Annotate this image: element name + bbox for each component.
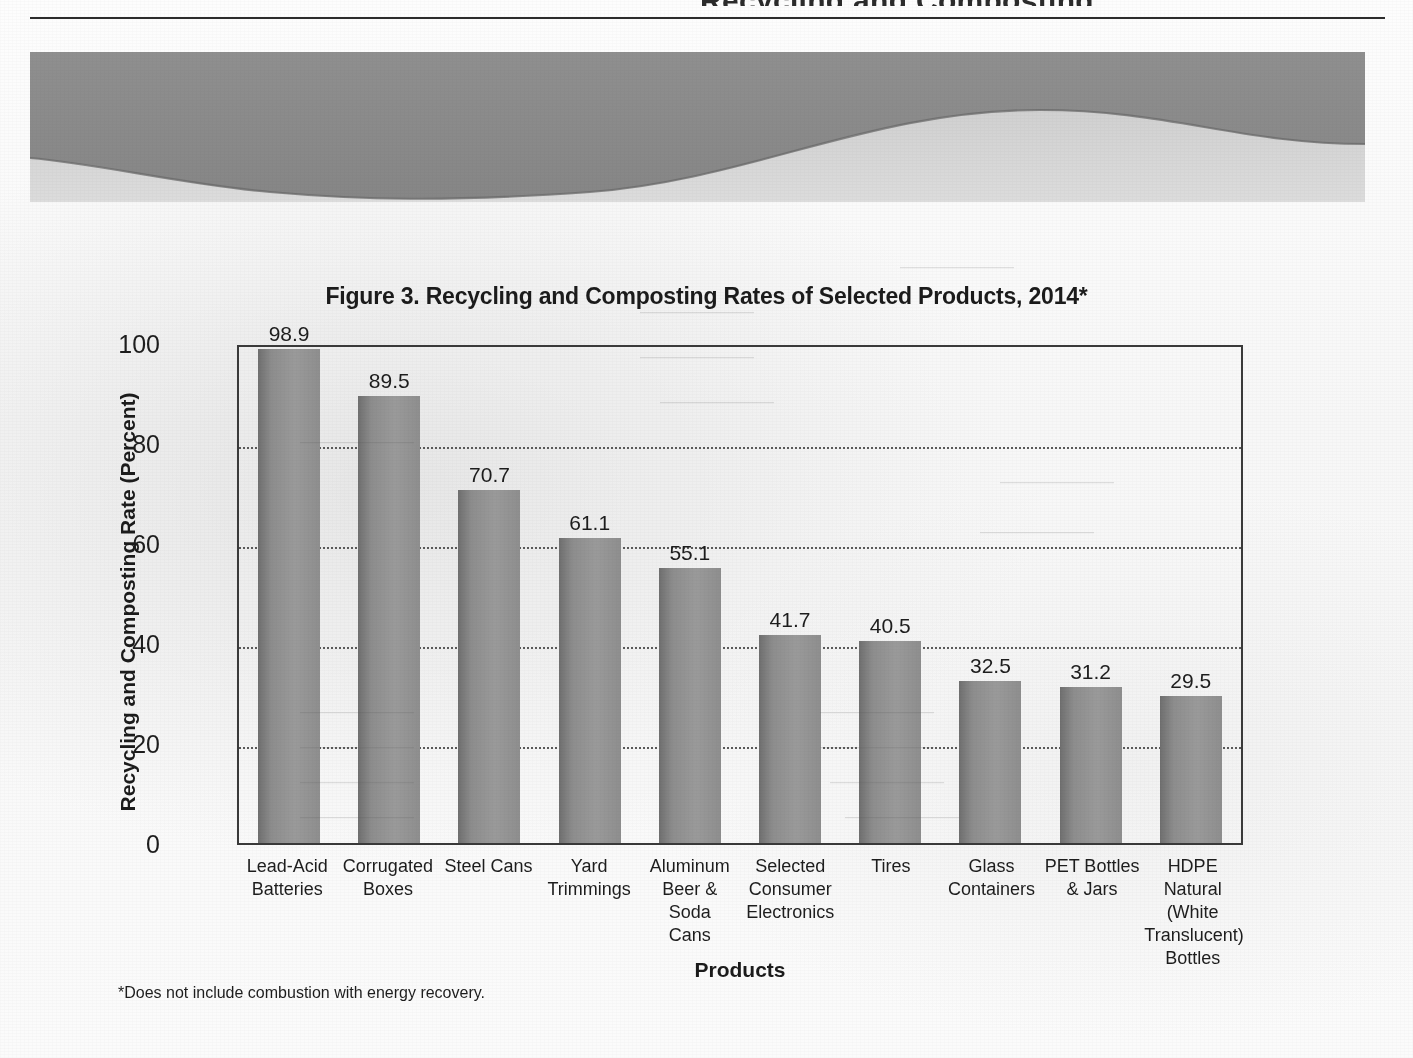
bar-slot: 41.7 (740, 347, 840, 843)
bar-value-label: 55.1 (669, 541, 710, 565)
bar-value-label: 40.5 (870, 614, 911, 638)
plot-area: 98.989.570.761.155.141.740.532.531.229.5 (237, 345, 1243, 845)
x-axis-category-label: Corrugated Boxes (338, 855, 439, 970)
bar-slot: 32.5 (940, 347, 1040, 843)
bar-value-label: 31.2 (1070, 660, 1111, 684)
bar-value-label: 41.7 (770, 608, 811, 632)
bar-value-label: 70.7 (469, 463, 510, 487)
bar[interactable]: 32.5 (959, 681, 1021, 844)
x-axis-category-label: Glass Containers (941, 855, 1042, 970)
x-axis-title: Products (237, 958, 1243, 982)
bars-group: 98.989.570.761.155.141.740.532.531.229.5 (239, 347, 1241, 843)
x-axis-category-label: Tires (841, 855, 942, 970)
y-tick-label: 20 (90, 730, 160, 759)
bar-slot: 55.1 (640, 347, 740, 843)
bar[interactable]: 61.1 (559, 538, 621, 844)
bar[interactable]: 31.2 (1060, 687, 1122, 843)
x-axis-category-label: Selected Consumer Electronics (740, 855, 841, 970)
bar-slot: 98.9 (239, 347, 339, 843)
bar-slot: 70.7 (439, 347, 539, 843)
bar[interactable]: 40.5 (859, 641, 921, 844)
bar-value-label: 61.1 (569, 511, 610, 535)
figure-footnote: *Does not include combustion with energy… (118, 984, 485, 1002)
bar[interactable]: 89.5 (358, 396, 420, 844)
bar[interactable]: 70.7 (458, 490, 520, 844)
y-tick-label: 100 (90, 330, 160, 359)
bar-value-label: 89.5 (369, 369, 410, 393)
bar-value-label: 29.5 (1170, 669, 1211, 693)
x-axis-category-label: Steel Cans (438, 855, 539, 970)
figure-title: Figure 3. Recycling and Composting Rates… (0, 283, 1413, 310)
x-axis-category-label: Aluminum Beer & Soda Cans (639, 855, 740, 970)
bar-slot: 40.5 (840, 347, 940, 843)
figure-container: Figure 3. Recycling and Composting Rates… (0, 0, 1413, 1058)
x-axis-category-label: HDPE Natural (White Translucent) Bottles (1142, 855, 1243, 970)
bar-value-label: 98.9 (269, 322, 310, 346)
y-tick-label: 40 (90, 630, 160, 659)
bar-slot: 29.5 (1141, 347, 1241, 843)
bar-value-label: 32.5 (970, 654, 1011, 678)
bar[interactable]: 29.5 (1160, 696, 1222, 844)
bar-slot: 61.1 (540, 347, 640, 843)
bar[interactable]: 98.9 (258, 349, 320, 844)
bar-slot: 31.2 (1041, 347, 1141, 843)
y-tick-label: 60 (90, 530, 160, 559)
y-tick-label: 0 (90, 830, 160, 859)
y-tick-label: 80 (90, 430, 160, 459)
x-axis-category-label: Yard Trimmings (539, 855, 640, 970)
bar[interactable]: 41.7 (759, 635, 821, 844)
bar[interactable]: 55.1 (659, 568, 721, 844)
bar-slot: 89.5 (339, 347, 439, 843)
x-axis-category-label: Lead-Acid Batteries (237, 855, 338, 970)
x-axis-category-labels: Lead-Acid BatteriesCorrugated BoxesSteel… (237, 855, 1243, 970)
x-axis-category-label: PET Bottles & Jars (1042, 855, 1143, 970)
